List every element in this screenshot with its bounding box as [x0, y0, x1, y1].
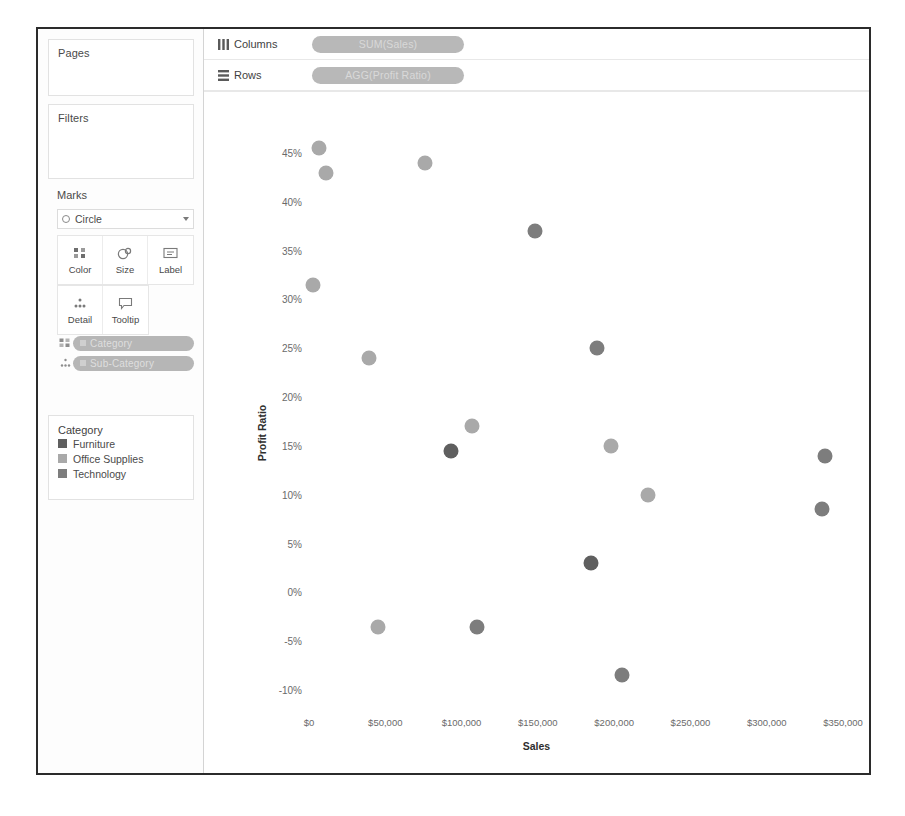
x-axis-tick-label: $0 [304, 717, 315, 728]
left-panel: Pages Filters Marks Circle [38, 29, 204, 773]
legend-item[interactable]: Office Supplies [49, 451, 193, 466]
shelves-area: Columns SUM(Sales) Rows AGG(Profit Ratio… [204, 29, 869, 91]
scatter-mark[interactable] [590, 341, 605, 356]
legend-swatch [58, 439, 67, 448]
marks-card-title: Marks [57, 189, 87, 201]
columns-shelf-pill[interactable]: SUM(Sales) [312, 36, 464, 53]
label-icon [163, 246, 178, 261]
legend-item-label: Technology [73, 468, 126, 480]
scatter-mark[interactable] [640, 487, 655, 502]
rows-shelf-label: Rows [234, 69, 312, 81]
size-icon [117, 246, 133, 261]
scatter-mark[interactable] [305, 277, 320, 292]
scatter-plot-area[interactable] [204, 92, 869, 773]
detail-icon [57, 358, 73, 368]
marks-pill-category-label: Category [90, 338, 132, 349]
color-legend-title: Category [49, 416, 193, 436]
scatter-mark[interactable] [584, 556, 599, 571]
legend-swatch [58, 454, 67, 463]
label-button-label: Label [159, 264, 182, 275]
scatter-mark[interactable] [443, 443, 458, 458]
color-button[interactable]: Color [58, 236, 103, 284]
scatter-mark[interactable] [814, 502, 829, 517]
color-icon [73, 246, 87, 261]
x-axis-tick-label: $250,000 [671, 717, 711, 728]
scatter-mark[interactable] [469, 619, 484, 634]
x-axis-tick-label: $300,000 [747, 717, 787, 728]
scatter-mark[interactable] [318, 165, 333, 180]
size-button-label: Size [116, 264, 134, 275]
visualization-canvas[interactable]: Profit Ratio 45%40%35%30%25%20%15%10%5%0… [204, 91, 869, 773]
columns-shelf-label: Columns [234, 38, 312, 50]
scatter-mark[interactable] [817, 448, 832, 463]
label-button[interactable]: Label [148, 236, 193, 284]
scatter-mark[interactable] [417, 155, 432, 170]
marks-pill-category-body[interactable]: Category [73, 336, 194, 351]
x-axis-tick-label: $350,000 [823, 717, 863, 728]
columns-icon [212, 39, 234, 50]
scatter-mark[interactable] [311, 141, 326, 156]
color-legend: Category FurnitureOffice SuppliesTechnol… [48, 415, 194, 500]
filters-shelf[interactable]: Filters [48, 104, 194, 179]
x-axis-tick-label: $200,000 [594, 717, 634, 728]
dimension-icon [80, 360, 86, 366]
marks-buttons-row-2: Detail Tooltip [57, 285, 149, 335]
mark-type-value: Circle [75, 213, 102, 225]
detail-button-label: Detail [68, 314, 92, 325]
pages-shelf[interactable]: Pages [48, 39, 194, 96]
scatter-mark[interactable] [604, 438, 619, 453]
x-axis-tick-label: $150,000 [518, 717, 558, 728]
x-axis-title: Sales [204, 740, 869, 752]
scatter-mark[interactable] [370, 619, 385, 634]
rows-shelf-pill[interactable]: AGG(Profit Ratio) [312, 67, 464, 84]
scatter-mark[interactable] [361, 351, 376, 366]
size-button[interactable]: Size [103, 236, 148, 284]
x-axis-tick-label: $50,000 [368, 717, 402, 728]
marks-pill-sub-category[interactable]: Sub-Category [57, 355, 194, 371]
screenshot-root: Pages Filters Marks Circle [0, 0, 905, 816]
scatter-mark[interactable] [527, 224, 542, 239]
tooltip-button[interactable]: Tooltip [103, 286, 148, 334]
marks-pill-category[interactable]: Category [57, 335, 194, 351]
legend-swatch [58, 469, 67, 478]
color-button-label: Color [69, 264, 92, 275]
filters-shelf-title: Filters [49, 105, 193, 124]
scatter-mark[interactable] [465, 419, 480, 434]
color-legend-items: FurnitureOffice SuppliesTechnology [49, 436, 193, 481]
legend-item[interactable]: Technology [49, 466, 193, 481]
legend-item-label: Office Supplies [73, 453, 143, 465]
columns-shelf[interactable]: Columns SUM(Sales) [204, 29, 869, 60]
detail-icon [72, 296, 88, 311]
rows-icon [212, 70, 234, 81]
marks-buttons-row-1: Color Size [57, 235, 194, 285]
rows-shelf[interactable]: Rows AGG(Profit Ratio) [204, 60, 869, 91]
scatter-mark[interactable] [614, 668, 629, 683]
marks-pill-sub-category-label: Sub-Category [90, 358, 154, 369]
marks-pill-sub-category-body[interactable]: Sub-Category [73, 356, 194, 371]
tooltip-button-label: Tooltip [112, 314, 139, 325]
dimension-icon [80, 340, 86, 346]
pages-shelf-title: Pages [49, 40, 193, 59]
color-icon [57, 338, 73, 348]
tooltip-icon [118, 296, 133, 311]
chevron-down-icon[interactable] [183, 217, 189, 221]
legend-item-label: Furniture [73, 438, 115, 450]
legend-item[interactable]: Furniture [49, 436, 193, 451]
tableau-worksheet-window: Pages Filters Marks Circle [36, 27, 871, 775]
circle-icon [62, 215, 70, 223]
x-axis-tick-label: $100,000 [442, 717, 482, 728]
detail-button[interactable]: Detail [58, 286, 103, 334]
mark-type-dropdown[interactable]: Circle [57, 209, 194, 229]
